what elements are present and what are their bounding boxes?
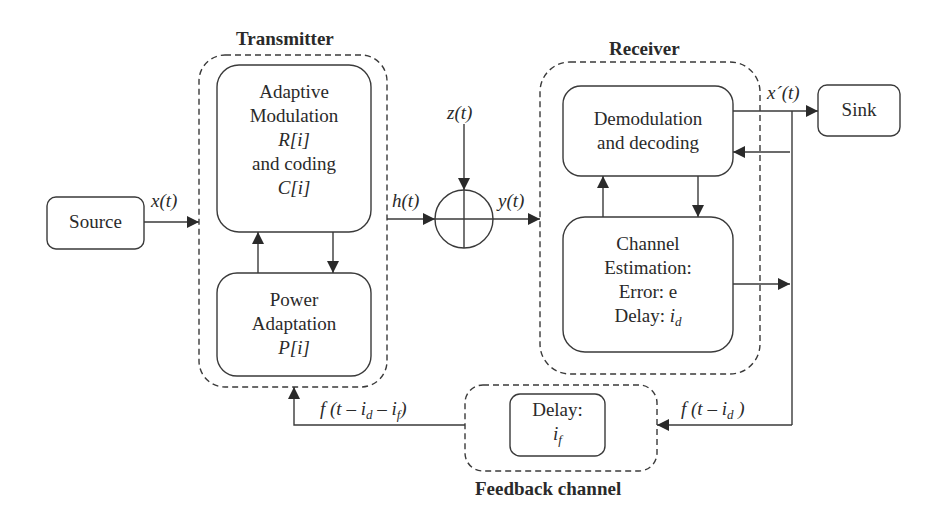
f-idf-text: f (t – i: [320, 398, 366, 419]
power-adaptation-line1: Power: [217, 288, 371, 312]
signal-y: y(t): [498, 190, 524, 212]
source-label: Source: [47, 210, 144, 234]
demodulation-text: Demodulation and decoding: [563, 107, 733, 155]
signal-f-delayed: f (t – id ): [681, 398, 745, 423]
channel-estimation-line4: Delay: id: [563, 304, 733, 334]
f-idf-suffix: ): [400, 398, 406, 419]
receiver-title: Receiver: [609, 38, 680, 60]
signal-x: x(t): [151, 190, 177, 212]
adaptive-modulation-line4: and coding: [217, 152, 371, 176]
power-adaptation-line2: Adaptation: [217, 312, 371, 336]
f-idf-mid: – i: [372, 398, 396, 419]
power-adaptation-text: Power Adaptation P[i]: [217, 288, 371, 360]
power-variable: P[i]: [217, 336, 371, 360]
adaptive-modulation-text: Adaptive Modulation R[i] and coding C[i]: [217, 80, 371, 200]
delay-subscript: d: [675, 314, 682, 329]
coding-variable: C[i]: [217, 176, 371, 200]
demodulation-line1: Demodulation: [563, 107, 733, 131]
f-id-suffix: ): [733, 398, 744, 419]
channel-estimation-text: Channel Estimation: Error: e Delay: id: [563, 232, 733, 334]
channel-estimation-line3: Error: e: [563, 280, 733, 304]
signal-z: z(t): [447, 102, 472, 124]
adaptive-modulation-line2: Modulation: [217, 104, 371, 128]
feedback-delay-line1: Delay:: [510, 398, 605, 422]
feedback-delay-text: Delay: if: [510, 398, 605, 452]
demodulation-line2: and decoding: [563, 131, 733, 155]
sink-label: Sink: [818, 98, 900, 122]
signal-f-feedback: f (t – id – if): [320, 398, 407, 423]
f-id-text: f (t – i: [681, 398, 727, 419]
feedback-delay-line2: if: [510, 422, 605, 452]
feedback-delay-subscript: f: [558, 432, 562, 447]
signal-h: h(t): [392, 190, 419, 212]
feedback-channel-title: Feedback channel: [475, 478, 621, 500]
block-diagram: [0, 0, 949, 520]
channel-estimation-line2: Estimation:: [563, 256, 733, 280]
signal-x-hat: x´(t): [767, 82, 800, 104]
channel-estimation-line1: Channel: [563, 232, 733, 256]
rate-variable: R[i]: [217, 128, 371, 152]
adaptive-modulation-line1: Adaptive: [217, 80, 371, 104]
transmitter-title: Transmitter: [236, 28, 334, 50]
delay-label: Delay:: [614, 305, 669, 326]
